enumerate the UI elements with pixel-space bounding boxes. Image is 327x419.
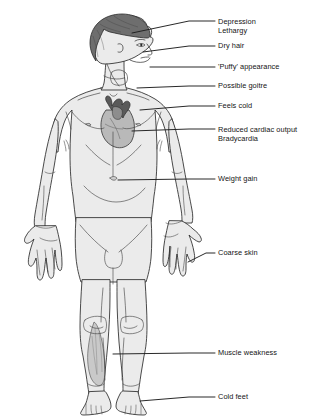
label-puffy-appearance-line-1: 'Puffy' appearance — [218, 63, 280, 72]
body-group — [25, 16, 202, 415]
label-feels-cold-line-1: Feels cold — [218, 102, 252, 111]
axillary-hair-right — [157, 140, 162, 151]
label-muscle-weakness-line-1: Muscle weakness — [218, 349, 277, 358]
label-cold-feet: Cold feet — [218, 393, 248, 402]
label-weight-gain: Weight gain — [218, 175, 257, 184]
label-possible-goitre: Possible goitre — [218, 82, 267, 91]
nipple-right — [136, 123, 141, 125]
label-cold-feet-line-1: Cold feet — [218, 393, 248, 402]
leader-line-cold-feet — [140, 397, 215, 401]
label-muscle-weakness: Muscle weakness — [218, 349, 277, 358]
nipple-left — [86, 123, 91, 125]
label-reduced-cardiac-output-bradycardia-line-2: Bradycardia — [218, 135, 297, 144]
label-possible-goitre-line-1: Possible goitre — [218, 82, 267, 91]
left-hand — [25, 226, 63, 280]
right-hand — [163, 221, 201, 276]
pupil — [140, 44, 142, 46]
axillary-hair-left — [64, 140, 69, 151]
label-coarse-skin-line-1: Coarse skin — [218, 249, 258, 258]
mouth — [141, 57, 149, 58]
label-coarse-skin: Coarse skin — [218, 249, 258, 258]
right-arm — [169, 119, 193, 223]
label-puffy-appearance: 'Puffy' appearance — [218, 63, 280, 72]
label-depression-lethargy: DepressionLethargy — [218, 18, 256, 35]
hypothyroidism-body-diagram: DepressionLethargyDry hair'Puffy' appear… — [0, 0, 327, 419]
label-feels-cold: Feels cold — [218, 102, 252, 111]
left-foot — [81, 391, 111, 415]
leader-line-possible-goitre — [137, 86, 215, 88]
label-weight-gain-line-1: Weight gain — [218, 175, 257, 184]
label-depression-lethargy-line-2: Lethargy — [218, 27, 256, 36]
pelvis — [75, 218, 152, 282]
left-arm — [34, 119, 58, 228]
leader-line-dry-hair — [143, 46, 215, 52]
label-dry-hair: Dry hair — [218, 42, 244, 51]
neck — [101, 61, 127, 90]
jawline — [130, 58, 150, 62]
label-dry-hair-line-1: Dry hair — [218, 42, 244, 51]
right-leg — [117, 280, 147, 394]
right-foot — [116, 391, 146, 415]
heart-pulmonary-trunk — [112, 107, 122, 120]
label-reduced-cardiac-output-bradycardia: Reduced cardiac outputBradycardia — [218, 126, 297, 143]
